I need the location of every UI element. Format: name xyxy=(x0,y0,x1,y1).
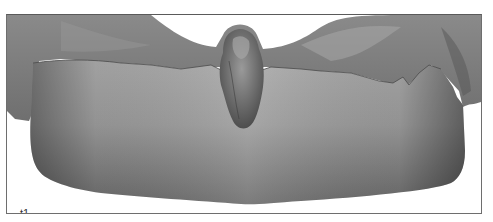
image-frame: t1 xyxy=(6,14,482,214)
scan-render xyxy=(7,15,482,214)
panel-label: t1 xyxy=(20,207,29,214)
